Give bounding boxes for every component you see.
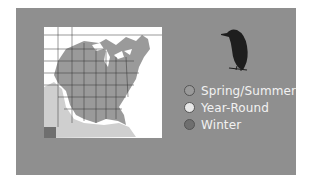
us-map-graphic bbox=[44, 27, 162, 138]
range-map-card: Spring/Summer Year-Round Winter bbox=[16, 8, 296, 175]
legend-label: Spring/Summer bbox=[201, 84, 296, 98]
year-round-swatch-icon bbox=[184, 102, 195, 113]
legend-item-winter: Winter bbox=[184, 116, 296, 133]
legend: Spring/Summer Year-Round Winter bbox=[184, 82, 296, 133]
legend-label: Year-Round bbox=[201, 101, 269, 115]
legend-item-year-round: Year-Round bbox=[184, 99, 296, 116]
spring-summer-swatch-icon bbox=[184, 85, 195, 96]
bird-silhouette-icon bbox=[221, 28, 253, 74]
range-map bbox=[44, 27, 162, 138]
winter-swatch-icon bbox=[184, 119, 195, 130]
legend-label: Winter bbox=[201, 118, 241, 132]
legend-item-spring-summer: Spring/Summer bbox=[184, 82, 296, 99]
